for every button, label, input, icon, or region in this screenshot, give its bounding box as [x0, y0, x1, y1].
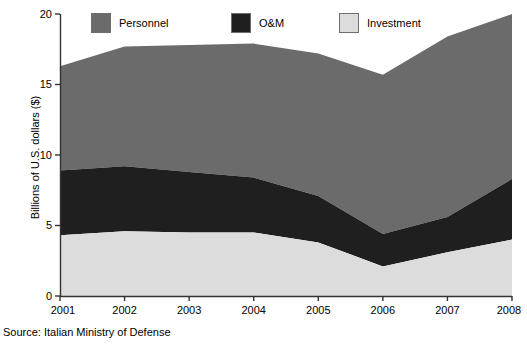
x-tick-2006: 2006: [363, 305, 403, 316]
stacked-area-plot: [0, 0, 527, 345]
x-tick-2001: 2001: [43, 305, 83, 316]
chart-figure: Personnel O&M Investment Billions of U.S…: [0, 0, 527, 345]
x-tick-2007: 2007: [427, 305, 467, 316]
x-axis-tick-labels: 20012002200320042005200620072008: [0, 305, 527, 321]
x-tick-2005: 2005: [298, 305, 338, 316]
source-note: Source: Italian Ministry of Defense: [3, 327, 171, 338]
y-axis-ticks: [55, 14, 60, 296]
x-tick-2004: 2004: [234, 305, 274, 316]
x-tick-2002: 2002: [105, 305, 145, 316]
x-tick-2008: 2008: [489, 305, 527, 316]
x-tick-2003: 2003: [169, 305, 209, 316]
